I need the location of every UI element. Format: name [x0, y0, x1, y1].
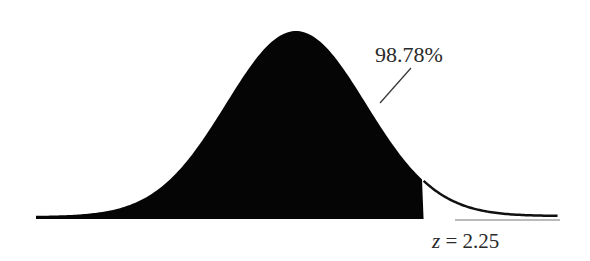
area-percent-label: 98.78% [375, 42, 443, 67]
z-equals-value: = 2.25 [440, 229, 499, 253]
z-variable: z [431, 229, 440, 253]
area-label-leader-line [380, 68, 411, 103]
unshaded-right-tail-curve [424, 181, 558, 216]
z-value-label: z = 2.25 [431, 229, 499, 253]
normal-curve-diagram: 98.78% z = 2.25 [0, 0, 590, 261]
shaded-area-left-of-z [36, 31, 424, 219]
